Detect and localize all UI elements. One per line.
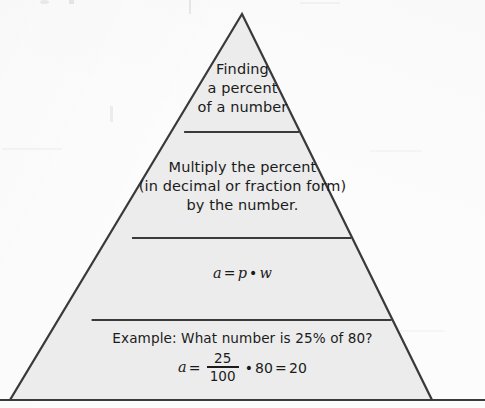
example-fraction-denominator: 100 — [207, 369, 239, 383]
tier-4-example-equation: a = 25 100 • 80 = 20 — [0, 352, 485, 384]
tier-1-line-1: Finding — [0, 60, 485, 79]
formula-lhs: a — [213, 264, 222, 283]
example-fraction: 25 100 — [207, 351, 239, 383]
tier-1-line-2: a percent — [0, 79, 485, 98]
formula-equals: = — [222, 264, 238, 282]
tier-1-line-3: of a number — [0, 98, 485, 117]
formula-factor-1: p — [238, 264, 247, 283]
example-equation-row: a = 25 100 • 80 = 20 — [178, 352, 307, 384]
example-equals-2: = — [273, 359, 289, 377]
tier-4-example-prompt: Example: What number is 25% of 80? — [0, 330, 485, 348]
example-result: 20 — [289, 359, 307, 377]
formula-multiply-operator: • — [247, 264, 259, 282]
tier-2-procedure-text: Multiply the percent (in decimal or frac… — [0, 158, 485, 215]
example-multiply-operator: • — [243, 359, 255, 377]
tier-2-line-2: (in decimal or fraction form) — [0, 177, 485, 196]
example-fraction-numerator: 25 — [211, 351, 234, 365]
example-lhs: a — [178, 358, 187, 377]
tier-3-formula: a = p • w — [0, 264, 485, 283]
tier-2-line-3: by the number. — [0, 196, 485, 215]
example-factor: 80 — [255, 359, 273, 377]
tier-1-concept-text: Finding a percent of a number — [0, 60, 485, 117]
tier-2-line-1: Multiply the percent — [0, 158, 485, 177]
formula-factor-2: w — [259, 264, 272, 283]
example-equals: = — [187, 359, 203, 377]
formula-equation: a = p • w — [213, 264, 272, 283]
